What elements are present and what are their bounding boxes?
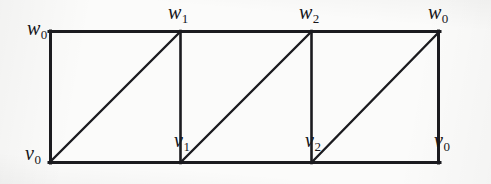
vertex-label-w2: w2 [299, 2, 319, 22]
cell-1-diagonal [50, 32, 180, 162]
vertex-label-v0-bottom-left: v0 [25, 143, 40, 163]
triangulated-rectangle-diagram [0, 0, 491, 184]
figure-canvas: w0 w1 w2 w0 v0 v1 v2 v0 [0, 0, 491, 184]
vertex-label-v2: v2 [305, 130, 320, 150]
vertex-label-w1: w1 [168, 2, 188, 22]
vertex-label-v1: v1 [174, 130, 189, 150]
vertex-label-w0-top-right: w0 [428, 2, 448, 22]
vertex-label-w0-top-left: w0 [27, 18, 47, 38]
vertex-label-v0-bottom-right: v0 [434, 130, 449, 150]
cell-2-diagonal [181, 32, 311, 162]
cell-3-diagonal [312, 32, 439, 162]
